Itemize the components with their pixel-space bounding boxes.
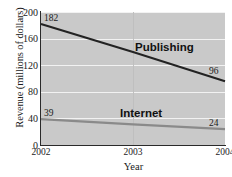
y-tick-label-120: 120 xyxy=(4,61,38,71)
internet-end-value: 24 xyxy=(209,119,219,129)
line-chart-figure: Revenue (millions of dollars) 200 160 12… xyxy=(0,0,232,177)
y-tick-label-40: 40 xyxy=(4,114,38,124)
internet-start-value: 39 xyxy=(44,109,54,119)
publishing-end-value: 96 xyxy=(209,67,219,77)
series-lines xyxy=(41,12,225,145)
x-tick-label-2003: 2003 xyxy=(113,147,153,157)
publishing-line xyxy=(41,24,225,81)
y-tick-label-80: 80 xyxy=(4,87,38,97)
x-tick-label-2002: 2002 xyxy=(21,147,61,157)
publishing-start-value: 182 xyxy=(44,14,58,24)
y-tick-label-200: 200 xyxy=(4,8,38,18)
internet-line xyxy=(41,119,225,129)
y-tick-label-160: 160 xyxy=(4,34,38,44)
x-axis-title: Year xyxy=(41,161,226,172)
x-tick-label-2004: 2004 xyxy=(205,147,232,157)
publishing-series-label: Publishing xyxy=(135,42,194,54)
internet-series-label: Internet xyxy=(120,108,162,120)
